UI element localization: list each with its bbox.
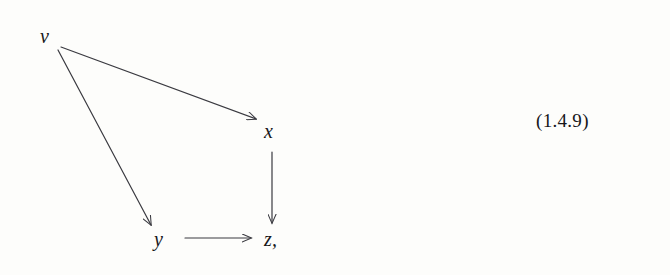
- diagram-node-x: x: [264, 121, 273, 141]
- page-canvas: v x y z, (1.4.9): [0, 0, 670, 275]
- commutative-diagram: [0, 0, 670, 275]
- edge-v-to-y: [58, 50, 151, 225]
- diagram-node-y: y: [154, 229, 163, 249]
- diagram-node-z: z,: [264, 229, 277, 249]
- diagram-node-v: v: [40, 26, 49, 46]
- equation-number: (1.4.9): [536, 110, 589, 132]
- edge-v-to-x: [61, 47, 256, 119]
- diagram-edges: [58, 47, 272, 238]
